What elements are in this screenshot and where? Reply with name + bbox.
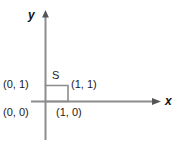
coordinate-diagram: y x S (0, 1) (1, 1) (0, 0) (1, 0): [0, 0, 181, 145]
vertex-label-0-1: (0, 1): [3, 79, 29, 90]
vertex-label-1-0: (1, 0): [56, 107, 82, 118]
x-axis-label: x: [165, 95, 172, 107]
y-axis-label: y: [28, 9, 35, 21]
y-axis-arrowhead: [42, 10, 49, 18]
x-axis-arrowhead: [152, 98, 161, 105]
vertex-label-1-1: (1, 1): [71, 79, 97, 90]
unit-square-s: [46, 86, 69, 102]
vertex-label-0-0: (0, 0): [3, 107, 29, 118]
square-region-label: S: [52, 70, 59, 81]
